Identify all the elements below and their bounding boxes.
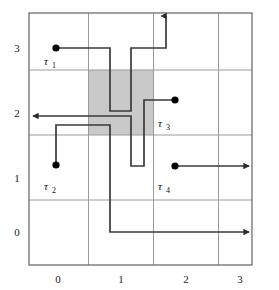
y-axis-tick-1: 1 xyxy=(14,172,20,184)
y-axis-tick-0: 0 xyxy=(14,226,20,238)
trajectory-label-tau-4-subscript: 4 xyxy=(166,186,170,195)
grid-trajectory-figure: τ 1 τ 2 τ 3 τ 4 3 2 1 0 0 1 2 3 xyxy=(0,0,279,290)
start-marker-tau-2 xyxy=(52,161,59,168)
trajectory-label-tau-3-subscript: 3 xyxy=(166,123,170,132)
figure-container: τ 1 τ 2 τ 3 τ 4 3 2 1 0 0 1 2 3 xyxy=(0,0,279,290)
trajectory-label-tau-2-subscript: 2 xyxy=(52,186,56,195)
x-axis-tick-1: 1 xyxy=(118,273,124,285)
x-axis-tick-3: 3 xyxy=(237,273,243,285)
start-marker-tau-1 xyxy=(52,44,59,51)
x-axis-tick-2: 2 xyxy=(183,273,189,285)
x-axis-tick-0: 0 xyxy=(55,273,61,285)
y-axis-tick-2: 2 xyxy=(14,107,20,119)
figure-background xyxy=(0,0,279,290)
start-marker-tau-4 xyxy=(171,162,178,169)
y-axis-tick-3: 3 xyxy=(14,42,20,54)
trajectory-label-tau-1-subscript: 1 xyxy=(52,61,56,70)
start-marker-tau-3 xyxy=(171,96,178,103)
